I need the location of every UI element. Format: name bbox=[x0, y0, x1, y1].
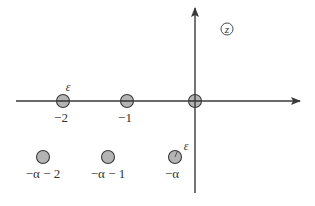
label-minus-alpha-minus-one: −α − 1 bbox=[91, 166, 125, 181]
label-minus-one: −1 bbox=[118, 110, 132, 125]
pole-minus-alpha-minus-two: −α − 2 bbox=[26, 151, 60, 182]
label-minus-alpha-minus-two: −α − 2 bbox=[26, 166, 60, 181]
pole-circle bbox=[102, 151, 115, 164]
pole-minus-alpha-minus-one: −α − 1 bbox=[91, 151, 125, 182]
epsilon-label-bottom: ε bbox=[184, 139, 189, 153]
pole-minus-two: ε −2 bbox=[54, 80, 71, 125]
complex-plane-diagram: z ε −2 −1 −α − 2 −α − 1 ε −α bbox=[0, 0, 315, 206]
label-minus-alpha: −α bbox=[165, 166, 179, 181]
pole-origin bbox=[189, 95, 202, 108]
pole-minus-alpha: ε −α bbox=[165, 139, 189, 181]
plane-label-z: z bbox=[221, 23, 233, 36]
label-minus-two: −2 bbox=[54, 110, 68, 125]
plane-label-text: z bbox=[224, 23, 230, 35]
pole-circle bbox=[37, 151, 50, 164]
epsilon-label-top: ε bbox=[66, 80, 71, 94]
pole-minus-one: −1 bbox=[118, 95, 133, 126]
